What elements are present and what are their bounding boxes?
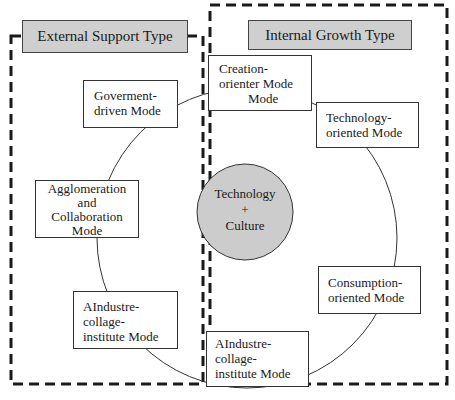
- node-text: AIndustre-: [83, 299, 172, 314]
- core-label-line3: Culture: [197, 218, 293, 234]
- node-government-driven: Goverment- driven Mode: [83, 80, 178, 128]
- node-text: driven Mode: [94, 103, 172, 118]
- node-industry-institute-bottom: AIndustre- collage- institute Mode: [206, 331, 309, 387]
- node-creation-oriented: Creation- orienter Mode Mode: [208, 55, 312, 111]
- external-group-title: External Support Type: [22, 20, 188, 53]
- node-text: institute Mode: [83, 329, 172, 344]
- node-agglomeration-collaboration: Agglomeration and Collaboration Mode: [35, 180, 139, 238]
- node-text: Mode: [38, 224, 136, 238]
- node-text: oriented Mode: [328, 290, 415, 305]
- internal-group-title-text: Internal Growth Type: [265, 27, 394, 44]
- node-text: oriented Mode: [326, 125, 413, 140]
- node-text: Mode: [219, 91, 306, 106]
- node-text: Technology-: [326, 110, 413, 125]
- core-label-line1: Technology: [197, 186, 293, 202]
- node-consumption-oriented: Consumption- oriented Mode: [318, 266, 421, 314]
- node-text: and: [38, 196, 136, 210]
- node-text: Consumption-: [328, 275, 415, 290]
- node-text: Creation-: [219, 61, 306, 76]
- node-text: Goverment-: [94, 88, 172, 103]
- node-industry-institute-left: AIndustre- collage- institute Mode: [73, 291, 178, 349]
- internal-group-title: Internal Growth Type: [248, 20, 412, 50]
- node-text: AIndustre-: [215, 336, 303, 351]
- external-group-title-text: External Support Type: [37, 28, 172, 45]
- core-label-line2: +: [197, 202, 293, 218]
- node-text: Agglomeration: [38, 182, 136, 196]
- core-label: Technology + Culture: [197, 186, 293, 234]
- node-text: orienter Mode: [219, 76, 306, 91]
- node-technology-oriented: Technology- oriented Mode: [316, 102, 419, 148]
- node-text: Collaboration: [38, 210, 136, 224]
- node-text: institute Mode: [215, 366, 303, 381]
- node-text: collage-: [83, 314, 172, 329]
- node-text: collage-: [215, 351, 303, 366]
